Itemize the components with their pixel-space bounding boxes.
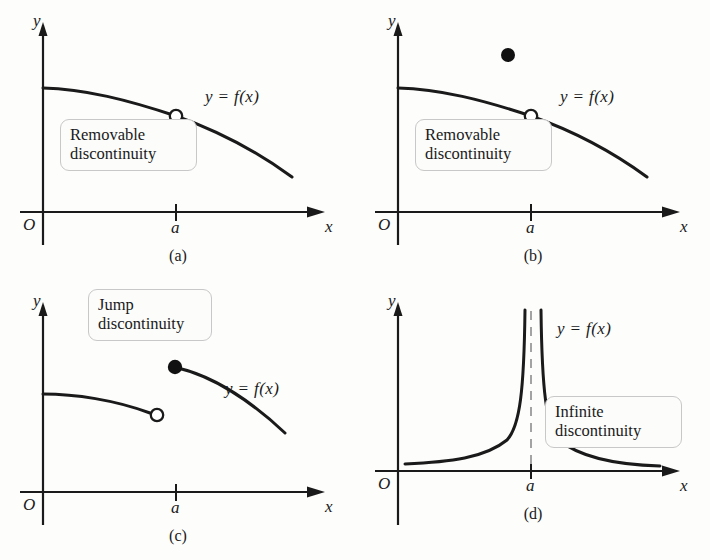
- origin-label: O: [23, 496, 35, 513]
- origin-label: O: [23, 216, 35, 233]
- x-tick-label-a: a: [526, 477, 535, 494]
- x-axis-arrowhead: [307, 207, 325, 218]
- panel-c: y x O a y = f(x) Jump discontinuity (c): [0, 280, 355, 560]
- callout-jump-discontinuity: Jump discontinuity: [88, 289, 212, 341]
- x-axis-arrowhead: [662, 466, 680, 477]
- panel-d: y x O a y = f(x) Infinite discontinuity …: [355, 280, 710, 560]
- function-curve-left-branch: [43, 394, 150, 413]
- panel-caption-a: (a): [148, 248, 208, 264]
- callout-infinite-discontinuity: Infinite discontinuity: [545, 396, 682, 448]
- open-circle-marker: [151, 409, 163, 421]
- curve-equation-label: y = f(x): [557, 320, 611, 337]
- curve-equation-label: y = f(x): [225, 380, 279, 397]
- y-axis-label: y: [33, 292, 41, 309]
- x-tick-label-a: a: [171, 219, 180, 236]
- x-axis-label: x: [325, 498, 333, 515]
- function-curve-right-branch: [178, 368, 285, 433]
- panel-caption-c: (c): [148, 528, 208, 544]
- filled-dot-marker: [501, 48, 515, 62]
- y-axis-label: y: [388, 12, 396, 29]
- x-axis-arrowhead: [662, 207, 680, 218]
- panel-a: y x O a y = f(x) Removable discontinuity…: [0, 0, 355, 280]
- curve-equation-label: y = f(x): [560, 88, 614, 105]
- panel-caption-b: (b): [503, 248, 563, 264]
- origin-label: O: [378, 216, 390, 233]
- curve-equation-label: y = f(x): [205, 88, 259, 105]
- function-curve-left-branch: [405, 310, 525, 464]
- x-tick-label-a: a: [526, 219, 535, 236]
- callout-removable-discontinuity: Removable discontinuity: [415, 119, 552, 171]
- origin-label: O: [378, 475, 390, 492]
- discontinuity-figure: y x O a y = f(x) Removable discontinuity…: [0, 0, 710, 560]
- panel-caption-d: (d): [503, 506, 563, 522]
- y-axis-label: y: [33, 12, 41, 29]
- callout-removable-discontinuity: Removable discontinuity: [60, 119, 197, 171]
- x-axis-label: x: [325, 218, 333, 235]
- x-axis-label: x: [680, 218, 688, 235]
- x-axis-arrowhead: [307, 487, 325, 498]
- panel-b: y x O a y = f(x) Removable discontinuity…: [355, 0, 710, 280]
- filled-dot-marker: [168, 360, 182, 374]
- y-axis-label: y: [388, 292, 396, 309]
- x-tick-label-a: a: [171, 499, 180, 516]
- x-axis-label: x: [680, 477, 688, 494]
